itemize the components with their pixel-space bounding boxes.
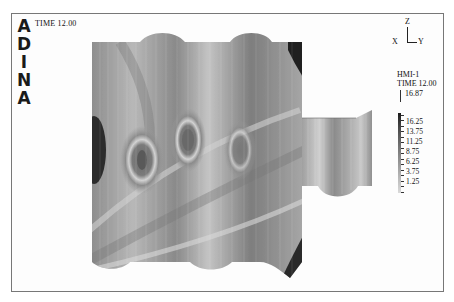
main-basin	[82, 28, 305, 283]
contour-plot	[0, 0, 454, 302]
side-channel	[302, 110, 372, 197]
